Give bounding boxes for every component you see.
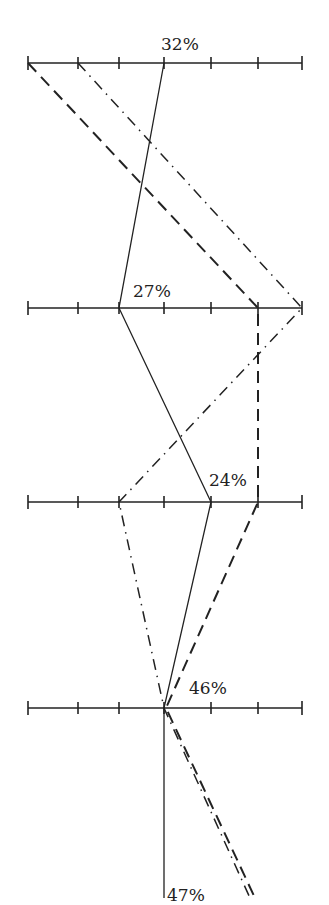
series-dash-dot (78, 63, 302, 898)
axis-1-label: 32% (161, 34, 199, 54)
axis-3 (28, 495, 302, 509)
axis-4-label: 46% (189, 678, 227, 698)
axis-3-label: 24% (209, 470, 247, 490)
axis-2-label: 27% (133, 281, 171, 301)
axis-2 (28, 301, 302, 315)
axis-1 (28, 56, 302, 70)
axis-5-label: 47% (167, 885, 205, 905)
